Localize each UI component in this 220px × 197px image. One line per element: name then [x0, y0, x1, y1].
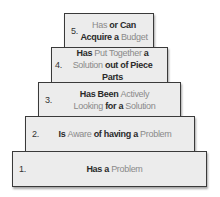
label-line: Acquire a Budget: [79, 31, 149, 43]
label-fragment: Budget: [121, 32, 148, 42]
level-number: 5.: [71, 26, 78, 36]
pyramid-level-5: 5. Has or Can Acquire a Budget: [64, 13, 154, 48]
label-line: Has Been Actively: [53, 88, 176, 100]
label-fragment: Put Together: [94, 48, 141, 58]
label-line: Has Put Together a: [62, 47, 163, 59]
pyramid-level-2: 2. Is Aware of having a Problem: [25, 116, 195, 152]
label-fragment: or Can: [107, 20, 136, 30]
label-fragment: Solution: [73, 60, 103, 70]
level-number: 3.: [45, 95, 52, 105]
label-line: Looking for a Solution: [53, 100, 176, 112]
label-fragment: Is: [59, 129, 68, 139]
label-fragment: for a: [103, 101, 125, 111]
label-fragment: Solution: [125, 101, 155, 111]
pyramid-level-3: 3. Has Been Actively Looking for a Solut…: [38, 82, 181, 117]
pyramid-level-4: 4. Has Put Together a Solution out of Pi…: [51, 47, 168, 83]
level-label: Is Aware of having a Problem: [40, 128, 190, 140]
label-fragment: of having a: [91, 129, 140, 139]
label-line: Has a Problem: [27, 163, 202, 175]
level-label: Has a Problem: [27, 163, 202, 175]
label-fragment: Problem: [111, 164, 142, 174]
pyramid-level-1: 1. Has a Problem: [12, 151, 207, 187]
level-label: Has Put Together a Solution out of Piece…: [62, 47, 163, 83]
label-fragment: a: [142, 48, 149, 58]
label-fragment: Has: [92, 20, 107, 30]
label-fragment: Looking: [74, 101, 103, 111]
label-fragment: Has a: [86, 164, 111, 174]
label-fragment: Has: [77, 48, 95, 58]
label-fragment: out of Piece Parts: [102, 60, 152, 82]
label-line: Has or Can: [79, 19, 149, 31]
level-label: Has Been Actively Looking for a Solution: [53, 88, 176, 112]
label-fragment: Has Been: [80, 89, 121, 99]
label-fragment: Problem: [140, 129, 171, 139]
level-number: 2.: [32, 129, 39, 139]
label-line: Solution out of Piece Parts: [62, 59, 163, 83]
label-fragment: Actively: [121, 89, 150, 99]
label-line: Is Aware of having a Problem: [40, 128, 190, 140]
label-fragment: Aware: [68, 129, 92, 139]
level-number: 1.: [19, 164, 26, 174]
label-fragment: Acquire a: [80, 32, 121, 42]
level-label: Has or Can Acquire a Budget: [79, 19, 149, 43]
